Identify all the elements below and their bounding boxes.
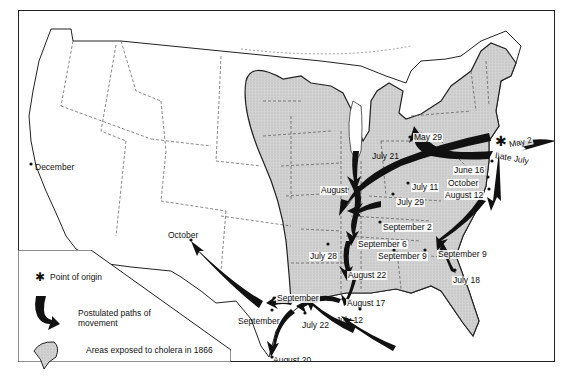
label-december: December <box>35 163 74 172</box>
label-july-28: July 28 <box>309 252 338 261</box>
label-july-22: July 22 <box>302 321 329 330</box>
label-august-north: August <box>320 186 348 195</box>
label-july-12: July 12 <box>336 316 363 325</box>
label-june-16: June 16 <box>453 166 485 175</box>
label-july-21: July 21 <box>372 152 399 161</box>
arrow-path-icon <box>32 294 62 334</box>
label-july-18: July 18 <box>452 276 481 285</box>
label-september-9-coast: September 9 <box>437 250 488 259</box>
label-september-2: September 2 <box>382 223 433 232</box>
asterisk-icon: ✱ <box>35 270 45 284</box>
shaded-area-icon <box>32 339 62 377</box>
label-august-20: August 20 <box>273 356 311 362</box>
label-july-29: July 29 <box>396 198 425 207</box>
label-july-11: July 11 <box>411 183 439 192</box>
label-may-29: May 29 <box>413 133 443 142</box>
label-october-west: October <box>168 231 198 240</box>
legend-exposed-areas: Areas exposed to cholera in 1866 <box>86 346 213 356</box>
label-august-17: August 17 <box>346 299 386 308</box>
label-august-12: August 12 <box>444 191 484 200</box>
legend-paths-line2: movement <box>78 319 118 329</box>
label-september-tx-upper: September <box>276 294 320 303</box>
label-september-6: September 6 <box>357 240 408 249</box>
label-september-9-inland: September 9 <box>377 252 428 261</box>
label-october-east: October <box>447 179 479 188</box>
legend: ✱ Point of origin Postulated paths of mo… <box>18 250 231 362</box>
origin-asterisk-icon: ✱ <box>495 133 507 149</box>
label-august-22: August 22 <box>347 271 387 280</box>
label-september-tx-lower: September <box>238 317 280 326</box>
legend-point-of-origin: Point of origin <box>50 273 102 283</box>
